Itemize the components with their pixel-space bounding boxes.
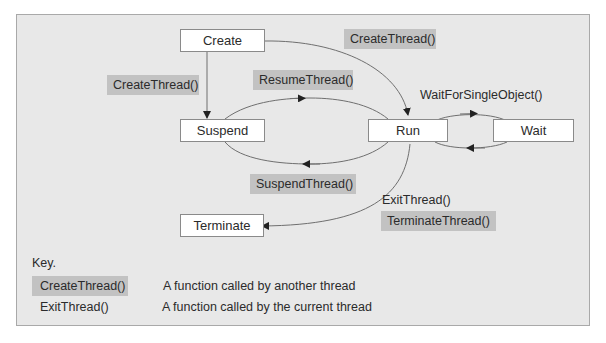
label-terminate-thread: TerminateThread()	[381, 211, 496, 231]
label-resume-thread: ResumeThread()	[253, 70, 353, 90]
key-description-current-thread: A function called by the current thread	[162, 300, 372, 314]
arc-wait-to-run	[435, 142, 507, 148]
label-create-to-suspend: CreateThread()	[107, 75, 199, 95]
arc-suspend-to-run	[225, 98, 388, 119]
label-exit-thread: ExitThread()	[382, 193, 451, 207]
arc-run-to-suspend	[225, 142, 388, 164]
state-wait: Wait	[493, 119, 574, 142]
label-suspend-thread: SuspendThread()	[250, 174, 356, 194]
key-description-other-thread: A function called by another thread	[163, 279, 356, 293]
state-run: Run	[368, 119, 448, 142]
state-create: Create	[180, 29, 265, 52]
state-suspend: Suspend	[180, 119, 265, 142]
key-sample-other-thread: CreateThread()	[32, 276, 128, 296]
state-terminate: Terminate	[180, 214, 264, 237]
label-create-to-run: CreateThread()	[344, 29, 436, 49]
key-title: Key.	[32, 256, 56, 270]
key-sample-current-thread: ExitThread()	[40, 300, 109, 314]
label-wait-for-single-object: WaitForSingleObject()	[420, 88, 543, 102]
